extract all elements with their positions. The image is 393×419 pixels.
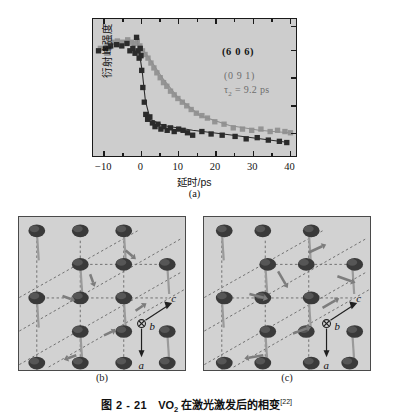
data-point (275, 128, 280, 133)
data-point (231, 125, 236, 130)
atom-highlight (29, 293, 39, 300)
x-tick-label: 0 (138, 161, 143, 172)
a-axis-arrowhead (324, 350, 330, 357)
atom-highlight (160, 259, 170, 266)
c-axis-label: c (356, 292, 361, 304)
axis-tick (291, 26, 296, 27)
panel-b-caption: (b) (18, 372, 186, 383)
data-point (212, 119, 217, 124)
axis-tick (234, 19, 235, 22)
data-point (154, 70, 159, 75)
axis-tick (122, 153, 123, 156)
atom-highlight (304, 358, 314, 365)
atom-highlight (260, 326, 270, 333)
axis-tick (159, 19, 160, 22)
data-point (199, 113, 204, 118)
axis-tick (215, 19, 216, 24)
displacement-arrow (68, 355, 76, 358)
atom-highlight (116, 259, 126, 266)
structure-box-b: abc (18, 216, 186, 371)
lattice-diagram-c: abc (204, 217, 370, 370)
axis-tick (290, 19, 291, 24)
data-point (277, 139, 282, 144)
data-point (205, 115, 210, 120)
caption-reference: [22] (280, 398, 292, 405)
atom-highlight (255, 225, 265, 232)
atom-highlight (260, 259, 270, 266)
data-point (147, 114, 152, 119)
axis-tick (197, 19, 198, 22)
data-point (124, 41, 129, 46)
atom-highlight (304, 293, 314, 300)
data-point (220, 133, 225, 138)
data-point (199, 129, 204, 134)
x-tick-label: 10 (172, 161, 183, 172)
axis-tick (103, 151, 104, 156)
data-point (185, 130, 190, 135)
displacement-arrow (90, 274, 93, 282)
unit-cell-line (49, 272, 185, 367)
displacement-arrow (62, 296, 70, 299)
displacement-arrow (278, 271, 285, 284)
atom-highlight (342, 358, 352, 365)
axis-tick (178, 151, 179, 156)
axis-tick (291, 105, 296, 106)
atom-highlight (73, 293, 83, 300)
axis-tick (291, 77, 296, 78)
atom-highlight (29, 358, 39, 365)
panel-a-chart: (6 0 6) (0 9 1) τ2 = 9.2 ps −10010203040… (0, 13, 393, 203)
a-axis-label: a (324, 359, 330, 370)
x-tick-label: 20 (210, 161, 221, 172)
axis-tick (122, 19, 123, 22)
x-tick-label: −10 (95, 161, 111, 172)
clipped-text: · ··· ·· ··· · ···· ··· ·· ··· ·· ·· ··· (0, 0, 134, 2)
panel-c-caption: (c) (203, 372, 371, 383)
data-point (138, 46, 143, 51)
atom-highlight (116, 225, 126, 232)
data-point (232, 134, 237, 139)
data-point (208, 131, 213, 136)
data-point (158, 75, 163, 80)
x-tick-label: 30 (247, 161, 258, 172)
data-point (114, 42, 119, 47)
axis-tick (271, 153, 272, 156)
axis-tick (291, 133, 296, 134)
structure-box-c: abc (203, 216, 371, 371)
data-point (266, 137, 271, 142)
a-axis-arrowhead (139, 350, 145, 357)
c-axis-line (330, 305, 354, 320)
lattice-diagram-b: abc (19, 217, 185, 370)
atom-highlight (116, 293, 126, 300)
axis-tick (234, 153, 235, 156)
axis-tick (291, 50, 296, 51)
data-point (139, 68, 144, 73)
atom-highlight (73, 358, 83, 365)
data-point (243, 136, 248, 141)
axis-tick (271, 19, 272, 22)
data-point (145, 55, 150, 60)
x-tick-label: 40 (284, 161, 295, 172)
atom-highlight (160, 358, 170, 365)
data-point (221, 122, 226, 127)
data-point (190, 133, 195, 138)
c-axis-label: c (171, 292, 176, 304)
data-point (240, 126, 245, 131)
atom-highlight (255, 358, 265, 365)
atom-highlight (217, 358, 227, 365)
data-point (284, 140, 289, 145)
displacement-arrow (126, 251, 133, 257)
displacement-arrow (136, 306, 143, 311)
data-point (130, 46, 135, 51)
axis-tick (253, 151, 254, 156)
data-point (189, 107, 194, 112)
displacement-arrow (337, 276, 351, 281)
axis-tick (178, 19, 179, 24)
displacement-arrow (104, 332, 112, 336)
axis-tick (141, 151, 142, 156)
c-axis-line (145, 305, 169, 320)
data-point (148, 60, 153, 65)
axis-tick (290, 151, 291, 156)
axis-tick (141, 19, 142, 24)
atom-highlight (304, 225, 314, 232)
atom-highlight (347, 326, 357, 333)
